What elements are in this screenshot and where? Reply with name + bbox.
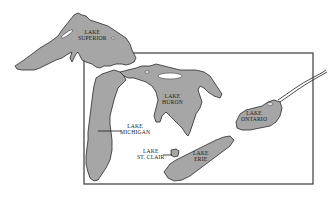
label-lake-erie: LAKE ERIE — [193, 150, 209, 162]
label-lake-michigan: LAKE MICHIGAN — [120, 123, 150, 135]
label-lake-st-clair: LAKE ST. CLAIR — [137, 148, 165, 160]
superior-island — [111, 37, 115, 39]
label-lake-ontario: LAKE ONTARIO — [241, 110, 267, 122]
st-lawrence-river — [278, 70, 327, 102]
label-lake-superior: LAKE SUPERIOR — [78, 29, 107, 41]
wolfe-island — [267, 103, 273, 106]
lake-st-clair — [171, 149, 179, 157]
lake-superior — [15, 13, 136, 70]
manitoulin-island — [158, 73, 182, 79]
label-lake-huron: LAKE HURON — [162, 93, 183, 105]
huron-island — [145, 71, 149, 73]
